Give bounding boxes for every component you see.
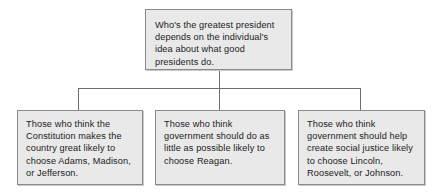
node-branch-limited-government-label: Those who think government should do as … (164, 118, 279, 167)
node-branch-limited-government: Those who think government should do as … (155, 110, 285, 185)
connector-drop-constitution (78, 88, 79, 110)
node-branch-social-justice: Those who think government should help c… (298, 110, 425, 185)
node-root-premise-label: Who's the greatest president depends on … (155, 19, 286, 68)
connector-root-stem (219, 70, 220, 88)
connector-drop-limited-government (219, 88, 220, 110)
node-branch-social-justice-label: Those who think government should help c… (307, 118, 419, 179)
presidential-greatness-diagram: Who's the greatest president depends on … (0, 0, 439, 193)
node-branch-constitution: Those who think the Constitution makes t… (17, 110, 143, 185)
connector-drop-social-justice (360, 88, 361, 110)
node-branch-constitution-label: Those who think the Constitution makes t… (26, 118, 137, 179)
node-root-premise: Who's the greatest president depends on … (145, 9, 292, 70)
